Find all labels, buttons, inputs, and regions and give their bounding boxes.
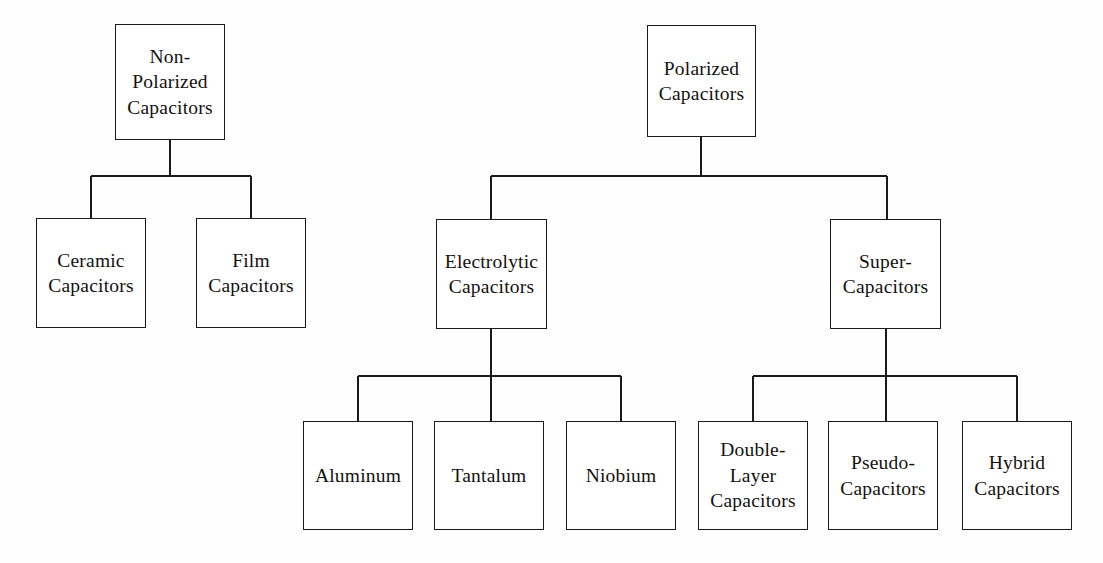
node-film-capacitors[interactable]: Film Capacitors	[196, 218, 306, 328]
node-label-electrolytic-capacitors: Electrolytic Capacitors	[441, 249, 542, 300]
diagram-canvas: Non- Polarized CapacitorsPolarized Capac…	[0, 0, 1103, 563]
node-tantalum-capacitors[interactable]: Tantalum	[434, 421, 544, 530]
node-non-polarized-capacitors[interactable]: Non- Polarized Capacitors	[115, 24, 225, 140]
node-hybrid-capacitors[interactable]: Hybrid Capacitors	[962, 421, 1072, 530]
node-electrolytic-capacitors[interactable]: Electrolytic Capacitors	[436, 219, 547, 329]
node-niobium-capacitors[interactable]: Niobium	[566, 421, 676, 530]
node-aluminum-capacitors[interactable]: Aluminum	[303, 421, 413, 530]
node-label-super-capacitors: Super- Capacitors	[839, 249, 932, 300]
node-ceramic-capacitors[interactable]: Ceramic Capacitors	[36, 218, 146, 328]
node-label-film-capacitors: Film Capacitors	[204, 248, 297, 299]
node-label-double-layer-capacitors: Double- Layer Capacitors	[706, 437, 799, 513]
node-label-niobium-capacitors: Niobium	[582, 463, 661, 488]
node-label-non-polarized-capacitors: Non- Polarized Capacitors	[123, 44, 216, 120]
node-label-tantalum-capacitors: Tantalum	[448, 463, 531, 488]
node-pseudo-capacitors[interactable]: Pseudo- Capacitors	[828, 421, 938, 530]
node-polarized-capacitors[interactable]: Polarized Capacitors	[647, 25, 756, 137]
node-label-ceramic-capacitors: Ceramic Capacitors	[44, 248, 137, 299]
node-label-polarized-capacitors: Polarized Capacitors	[655, 56, 748, 107]
node-label-pseudo-capacitors: Pseudo- Capacitors	[836, 450, 929, 501]
node-double-layer-capacitors[interactable]: Double- Layer Capacitors	[698, 421, 808, 530]
node-label-aluminum-capacitors: Aluminum	[311, 463, 405, 488]
node-super-capacitors[interactable]: Super- Capacitors	[830, 219, 941, 329]
node-label-hybrid-capacitors: Hybrid Capacitors	[970, 450, 1063, 501]
